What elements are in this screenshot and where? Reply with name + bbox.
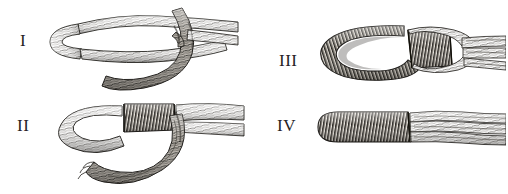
rope-frayed-end-right — [462, 36, 506, 70]
rope-bight-group — [50, 8, 238, 90]
rope-lower-limb — [80, 40, 227, 63]
rope-seized-loop-group — [59, 104, 244, 184]
figure-iii-artwork — [316, 24, 506, 86]
figure-label-i: I — [20, 32, 26, 49]
rope-eye-loop — [59, 106, 124, 153]
figure-label-iv: IV — [277, 117, 296, 134]
figure-label-iii: III — [279, 52, 297, 69]
rope-laid-strands — [410, 111, 506, 145]
seizing-whipping-band — [124, 104, 176, 132]
rope-standing-part-right — [176, 104, 244, 121]
figure-label-ii: II — [17, 117, 29, 134]
served-eye-group — [321, 26, 506, 80]
illustration-plate: I — [0, 0, 508, 194]
whipped-rope-end-group — [318, 111, 506, 145]
eye-throat-whipping — [408, 30, 452, 68]
rope-bight-turn — [50, 24, 82, 59]
served-eye-ring — [321, 26, 420, 80]
tip-whipping — [318, 112, 410, 142]
rope-standing-part-right-lower — [176, 122, 244, 136]
figure-i-artwork — [48, 2, 240, 94]
figure-iv-artwork — [316, 108, 506, 152]
rope-upper-limb — [78, 16, 238, 34]
figure-ii-artwork — [50, 96, 246, 192]
rope-tail-right — [187, 30, 238, 45]
